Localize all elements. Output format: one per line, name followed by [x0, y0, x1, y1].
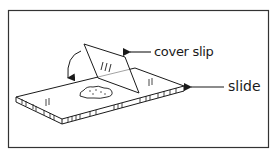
lowering-arrow-icon: [68, 51, 81, 78]
cover-slip-label: cover slip: [154, 45, 214, 58]
diagram-canvas: cover slip slide: [0, 0, 278, 165]
slide-label: slide: [228, 79, 261, 93]
